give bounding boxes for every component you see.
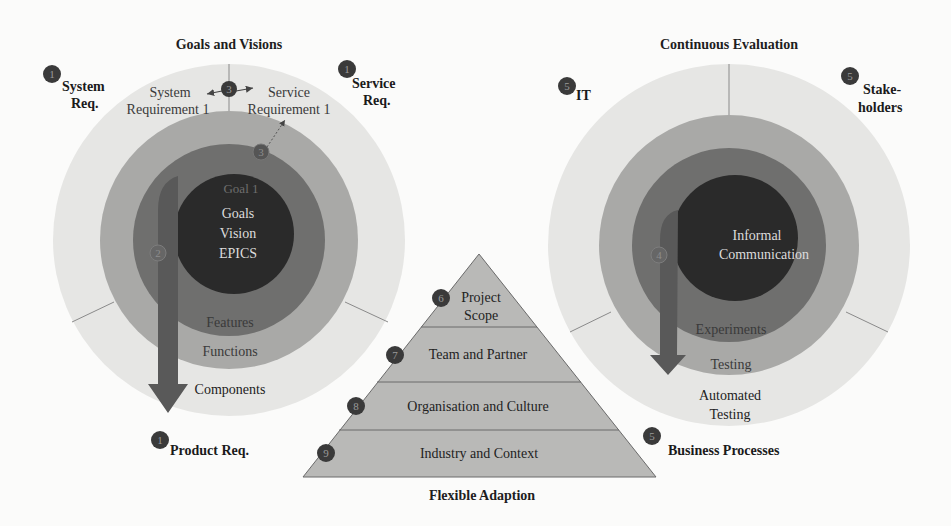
continuous-evaluation-diagram: Continuous Evaluation Informal Communica… (548, 37, 910, 458)
core-faint-label: Goal 1 (223, 181, 258, 196)
badge-3-top: 3 (221, 81, 237, 97)
flexible-adaption-title: Flexible Adaption (429, 488, 535, 503)
svg-text:5: 5 (847, 70, 853, 82)
svg-text:5: 5 (649, 430, 655, 442)
svg-text:Stake-: Stake- (863, 82, 901, 97)
svg-text:1: 1 (49, 68, 55, 80)
svg-text:3: 3 (258, 146, 264, 158)
ring-label-functions: Functions (202, 344, 257, 359)
diagram-canvas: Goals and Visions Goal 1 Goals Vision EP… (0, 0, 951, 526)
ring-label-automated: Automated (699, 388, 761, 403)
svg-text:2: 2 (155, 247, 161, 259)
svg-text:Scope: Scope (464, 308, 498, 323)
svg-text:Req.: Req. (363, 93, 391, 108)
svg-text:Product Req.: Product Req. (170, 443, 249, 458)
svg-text:1: 1 (157, 434, 163, 446)
continuous-evaluation-title: Continuous Evaluation (660, 37, 798, 52)
svg-text:Industry and Context: Industry and Context (420, 446, 538, 461)
svg-text:5: 5 (564, 80, 570, 92)
core-line-communication: Communication (719, 247, 809, 262)
svg-text:Team and Partner: Team and Partner (429, 347, 528, 362)
svg-text:9: 9 (323, 447, 329, 459)
svg-text:Service: Service (352, 76, 396, 91)
svg-text:Business Processes: Business Processes (668, 443, 780, 458)
ring-label-components: Components (195, 382, 266, 397)
svg-text:8: 8 (353, 400, 359, 412)
svg-text:holders: holders (858, 100, 903, 115)
svg-text:System: System (62, 79, 105, 94)
service-req-callout: 1 Service Req. (338, 60, 396, 108)
core-line-vision: Vision (220, 226, 257, 241)
core-line-informal: Informal (733, 228, 782, 243)
svg-text:1: 1 (344, 63, 350, 75)
system-requirement-label-1: System (149, 85, 190, 100)
ring-label-testing: Testing (710, 357, 751, 372)
svg-text:IT: IT (576, 88, 591, 103)
goals-and-visions-title: Goals and Visions (176, 37, 283, 52)
svg-text:Req.: Req. (71, 96, 99, 111)
system-requirement-label-2: Requirement 1 (127, 102, 210, 117)
stakeholders-callout: 5 Stake- holders (841, 67, 903, 115)
business-processes-callout: 5 Business Processes (643, 427, 780, 458)
service-requirement-label-1: Service (268, 85, 310, 100)
badge-3-inner: 3 (253, 144, 269, 160)
badge-2: 2 (150, 245, 166, 261)
badge-4: 4 (651, 247, 667, 263)
it-callout: 5 IT (558, 77, 591, 103)
core-line-epics: EPICS (219, 246, 257, 261)
svg-text:3: 3 (226, 83, 232, 95)
ring-label-features: Features (206, 315, 253, 330)
svg-text:Project: Project (461, 290, 501, 305)
service-requirement-label-2: Requirement 1 (248, 102, 331, 117)
ring-label-experiments: Experiments (696, 322, 767, 337)
svg-text:4: 4 (656, 249, 662, 261)
svg-text:7: 7 (392, 349, 398, 361)
ring-label-automated-testing: Testing (709, 407, 750, 422)
svg-text:6: 6 (438, 292, 444, 304)
goals-and-visions-diagram: Goals and Visions Goal 1 Goals Vision EP… (43, 37, 405, 458)
core-line-goals: Goals (222, 206, 255, 221)
product-req-callout: 1 Product Req. (151, 431, 249, 458)
svg-text:Organisation and Culture: Organisation and Culture (407, 399, 548, 414)
system-req-callout: 1 System Req. (43, 65, 105, 111)
